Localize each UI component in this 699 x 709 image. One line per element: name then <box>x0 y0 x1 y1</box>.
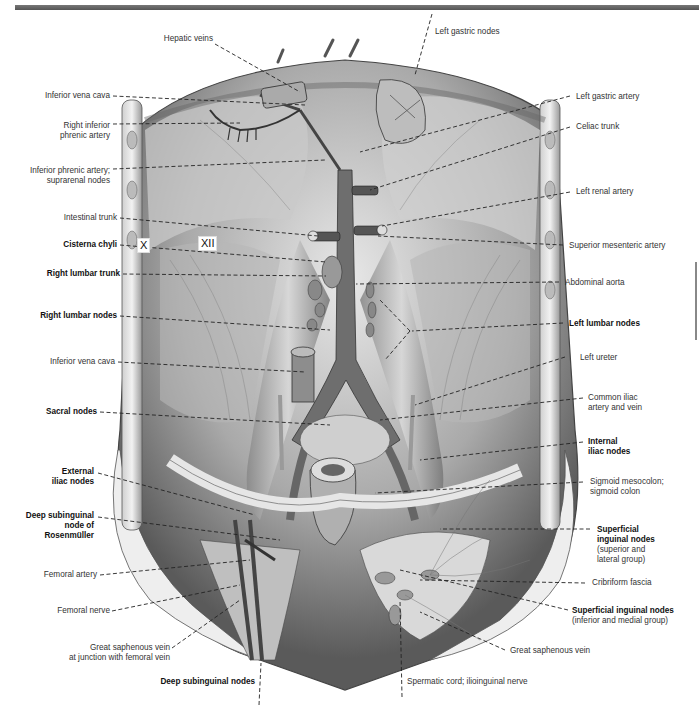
label-femoral-artery: Femoral artery <box>10 570 97 580</box>
label-right-lumbar-trunk: Right lumbar trunk <box>10 269 120 279</box>
rib-xii-marker: XII <box>198 236 217 251</box>
label-great-saphenous-vein-junction: Great saphenous veinat junction with fem… <box>30 643 170 663</box>
label-common-iliac-artery-vein: Common iliacartery and vein <box>588 393 642 413</box>
label-inferior-vena-cava-upper: Inferior vena cava <box>10 91 110 101</box>
label-sacral-nodes: Sacral nodes <box>10 407 97 417</box>
label-deep-subinguinal-node-rosenmuller: Deep subinguinalnode ofRosenmüller <box>0 511 94 541</box>
label-left-renal-artery: Left renal artery <box>576 187 633 197</box>
label-cribriform-fascia: Cribriform fascia <box>592 578 652 588</box>
label-abdominal-aorta: Abdominal aorta <box>565 278 625 288</box>
label-right-lumbar-nodes: Right lumbar nodes <box>10 311 117 321</box>
rib-x-marker: X <box>137 238 150 253</box>
label-left-lumbar-nodes: Left lumbar nodes <box>569 319 640 329</box>
label-femoral-nerve: Femoral nerve <box>10 606 110 616</box>
label-sigmoid-mesocolon: Sigmoid mesocolon;sigmoid colon <box>590 477 664 497</box>
label-left-gastric-artery: Left gastric artery <box>576 92 639 102</box>
label-cisterna-chyli: Cisterna chyli <box>10 240 117 250</box>
label-superior-mesenteric-artery: Superior mesenteric artery <box>569 241 665 251</box>
label-celiac-trunk: Celiac trunk <box>576 122 619 132</box>
label-internal-iliac-nodes: Internaliliac nodes <box>588 437 630 457</box>
label-right-inferior-phrenic-artery: Right inferiorphrenic artery <box>10 121 110 141</box>
label-great-saphenous-vein: Great saphenous vein <box>510 646 590 656</box>
label-deep-subinguinal-nodes: Deep subinguinal nodes <box>130 677 255 687</box>
label-spermatic-cord-ilioinguinal-nerve: Spermatic cord; ilioinguinal nerve <box>407 677 528 687</box>
label-inferior-vena-cava-lower: Inferior vena cava <box>10 357 115 367</box>
label-inferior-phrenic-artery-suprarenal-nodes: Inferior phrenic artery;suprarenal nodes <box>0 166 110 186</box>
label-left-gastric-nodes: Left gastric nodes <box>435 27 500 37</box>
label-superficial-inguinal-nodes-inferior: Superficial inguinal nodes(inferior and … <box>572 606 674 626</box>
label-external-iliac-nodes: Externaliliac nodes <box>10 467 94 487</box>
label-left-ureter: Left ureter <box>580 353 617 363</box>
label-intestinal-trunk: Intestinal trunk <box>10 213 117 223</box>
label-superficial-inguinal-nodes-superior: Superficialinguinal nodes (superior andl… <box>597 525 655 565</box>
label-hepatic-veins: Hepatic veins <box>133 34 213 44</box>
